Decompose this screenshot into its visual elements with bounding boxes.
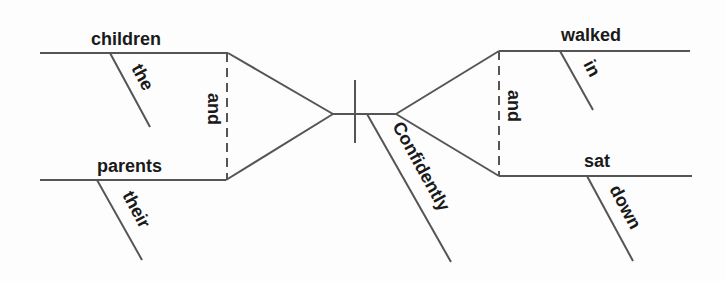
word-sat: sat: [584, 151, 610, 171]
word-confidently: Confidently: [389, 118, 454, 214]
sentence-diagram: children parents the their and walked sa…: [0, 0, 725, 281]
word-their: their: [118, 187, 154, 231]
word-down: down: [605, 181, 645, 232]
word-children: children: [91, 29, 161, 49]
diagram-canvas: children parents the their and walked sa…: [0, 0, 725, 281]
word-parents: parents: [97, 156, 162, 176]
predicate-fork-top: [396, 51, 499, 114]
modifier-line-in: [560, 51, 593, 110]
subject-fork-top: [228, 53, 333, 114]
subject-fork-bottom: [226, 114, 333, 180]
word-walked: walked: [560, 25, 621, 45]
word-the: the: [127, 60, 157, 93]
word-and-subjects: and: [204, 93, 224, 125]
word-in: in: [579, 56, 604, 80]
word-and-predicates: and: [504, 90, 524, 122]
